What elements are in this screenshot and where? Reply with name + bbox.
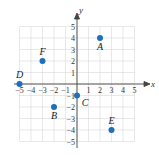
y-tick-label: −2 <box>66 103 75 112</box>
y-tick-label: 4 <box>71 34 75 43</box>
point-label-d: D <box>15 69 24 80</box>
y-tick-label: −4 <box>66 126 75 135</box>
y-tick-label: 1 <box>71 69 75 78</box>
y-tick-label: −1 <box>66 92 75 101</box>
point-label-a: A <box>96 41 104 52</box>
coordinate-plane: x y −5−4−3−2−11234554321−1−2−3−4−5 ABCDE… <box>0 0 159 155</box>
y-axis-label: y <box>78 5 83 15</box>
x-tick-label: −4 <box>27 86 36 95</box>
x-tick-label: 5 <box>133 86 137 95</box>
point-f <box>40 58 46 64</box>
x-axis-label: x <box>150 79 155 89</box>
point-d <box>17 81 23 87</box>
point-label-f: F <box>38 46 46 57</box>
point-label-e: E <box>107 115 114 126</box>
point-label-c: C <box>82 97 89 108</box>
y-tick-label: 2 <box>71 57 75 66</box>
x-tick-label: 1 <box>87 86 91 95</box>
point-e <box>109 127 115 133</box>
y-tick-label: 5 <box>71 23 75 32</box>
x-tick-label: 2 <box>98 86 102 95</box>
y-tick-label: −5 <box>66 138 75 147</box>
x-tick-label: −3 <box>38 86 47 95</box>
point-label-b: B <box>51 110 57 121</box>
y-tick-label: −3 <box>66 115 75 124</box>
x-tick-label: −5 <box>15 86 24 95</box>
x-tick-label: 4 <box>121 86 125 95</box>
point-c <box>74 93 80 99</box>
tick-labels: −5−4−3−2−11234554321−1−2−3−4−5 <box>15 23 136 147</box>
y-tick-label: 3 <box>71 46 75 55</box>
x-tick-label: −2 <box>50 86 59 95</box>
axes <box>14 13 150 148</box>
x-tick-label: 3 <box>110 86 114 95</box>
